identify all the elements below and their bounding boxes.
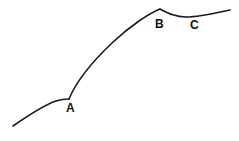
figure-background (0, 0, 239, 141)
point-label-a: A (66, 102, 75, 114)
point-label-b: B (155, 18, 164, 30)
figure-canvas: A B C (0, 0, 239, 141)
curve-diagram (0, 0, 239, 141)
point-label-c: C (190, 19, 199, 31)
